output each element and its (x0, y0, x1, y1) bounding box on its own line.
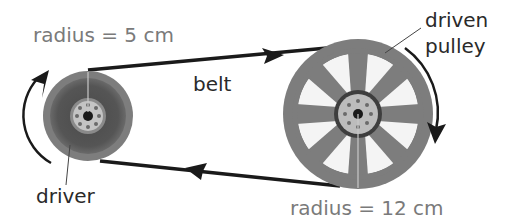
driven-pulley (283, 39, 433, 189)
driven-radius-label: radius = 12 cm (290, 198, 444, 218)
driver-label: driver (36, 186, 95, 206)
driver-pulley (43, 71, 133, 161)
driven-pulley-label-line2: pulley (425, 36, 486, 56)
driven-pulley-label-line1: driven (425, 10, 488, 30)
driven-pulley-leader-line (385, 28, 421, 53)
belt-label: belt (193, 74, 231, 94)
driver-radius-label: radius = 5 cm (33, 25, 174, 45)
belt-arrow-right-icon (262, 48, 284, 64)
